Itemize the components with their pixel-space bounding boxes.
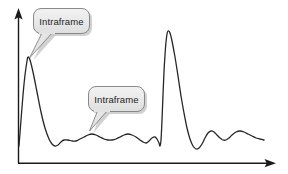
callout-1-label: Intraframe [39,16,83,27]
callout-2-seam [94,108,110,113]
figure-container: Intraframe Intraframe [0,0,288,174]
waveform-diagram: Intraframe Intraframe [0,0,288,174]
callout-2-label: Intraframe [94,94,138,105]
callout-1-seam [39,30,55,35]
